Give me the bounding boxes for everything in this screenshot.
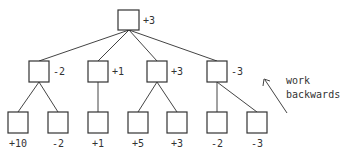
leaf-value: +1 <box>92 138 104 149</box>
leaf-value: -3 <box>251 138 263 149</box>
leaf-value: +3 <box>171 138 183 149</box>
level1-node: -3 <box>207 61 243 82</box>
leaf-value: +5 <box>132 138 144 149</box>
leaf-node: +1 <box>88 112 108 149</box>
leaf-node: +3 <box>167 112 187 149</box>
leaf-node: -2 <box>207 112 227 149</box>
leaf-node: -3 <box>247 112 267 149</box>
level1-node: +3 <box>147 61 183 82</box>
leaf-node: +5 <box>128 112 148 149</box>
node-value: +3 <box>171 66 183 77</box>
leaf-value: -2 <box>211 138 223 149</box>
root-node: +3 <box>118 10 155 30</box>
annotation-line2: backwards <box>286 89 340 100</box>
leaf-value: -2 <box>52 138 64 149</box>
level1-node: +1 <box>88 61 124 82</box>
leaf-value: +10 <box>9 138 27 149</box>
node-value: -3 <box>231 66 243 77</box>
arrow-up-left-icon <box>263 79 287 113</box>
annotation-line1: work <box>286 75 310 86</box>
root-value: +3 <box>143 15 155 26</box>
leaf-node: +10 <box>8 112 28 149</box>
leaf-node: -2 <box>48 112 68 149</box>
node-value: -2 <box>53 66 65 77</box>
game-tree-diagram: +3 -2 +1 +3 -3 +10 -2 +1 +5 +3 -2 <box>0 0 357 155</box>
level1-node: -2 <box>29 61 65 82</box>
node-value: +1 <box>112 66 124 77</box>
